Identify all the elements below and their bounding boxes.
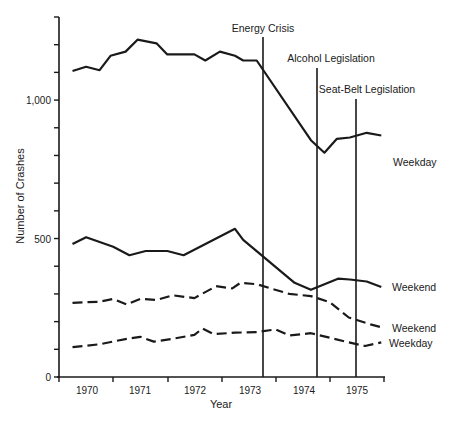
series-label-weekday-solid: Weekday xyxy=(393,156,437,168)
x-tick-label-1973: 1973 xyxy=(239,385,262,396)
energy-crisis-label: Energy Crisis xyxy=(232,22,294,34)
series-line-2 xyxy=(73,283,382,327)
y-tick-label-500: 500 xyxy=(34,234,51,245)
series-line-3 xyxy=(73,329,382,348)
series-label-weekend-dashed: Weekend xyxy=(392,322,436,334)
series-label-weekday-dashed: Weekday xyxy=(389,337,433,349)
y-tick-label-0: 0 xyxy=(45,372,51,383)
line-chart: 0 500 1,000 Number of Crashes 1970 1971 … xyxy=(0,0,451,422)
x-tick-label-1975: 1975 xyxy=(346,385,369,396)
y-axis-title: Number of Crashes xyxy=(14,148,26,244)
x-tick-label-1974: 1974 xyxy=(293,385,316,396)
x-axis: 1970 1971 1972 1973 1974 1975 Year xyxy=(57,377,385,410)
series-label-weekend-solid: Weekend xyxy=(392,281,436,293)
x-tick-label-1972: 1972 xyxy=(184,385,207,396)
alcohol-legislation-label: Alcohol Legislation xyxy=(287,52,375,64)
y-axis: 0 500 1,000 Number of Crashes xyxy=(14,17,59,383)
seatbelt-legislation-label: Seat-Belt Legislation xyxy=(319,83,415,95)
y-tick-label-1000: 1,000 xyxy=(26,95,51,106)
x-tick-label-1971: 1971 xyxy=(129,385,152,396)
x-tick-label-1970: 1970 xyxy=(76,385,99,396)
x-axis-title: Year xyxy=(210,398,233,410)
series-line-1 xyxy=(73,229,382,290)
